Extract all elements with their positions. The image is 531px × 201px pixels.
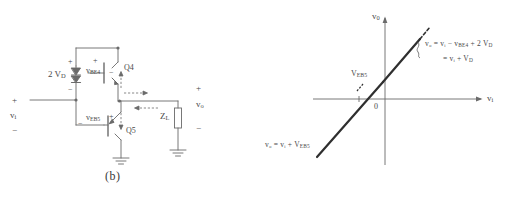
figure-container: + − vi 2 VD + − + vBE4 − vEB5 + − Q4 Q5 … xyxy=(0,0,531,201)
graph-lower-equation: v₀ = vᵢ + VEB5 xyxy=(265,141,310,150)
circuit-wires xyxy=(30,48,186,164)
graph-y-axis-label: v0 xyxy=(372,12,380,22)
vbe4-label: vBE4 xyxy=(86,67,100,76)
veb5-plus-sign: + xyxy=(109,113,114,121)
output-voltage-label: vo xyxy=(196,100,204,110)
input-minus-sign: − xyxy=(12,126,17,135)
input-plus-sign: + xyxy=(12,96,17,105)
transistor-q4-label: Q4 xyxy=(124,64,134,72)
graph-x-axis-label: vi xyxy=(487,94,493,104)
figure-drawing xyxy=(0,0,531,201)
vbe4-plus-sign: + xyxy=(93,57,98,65)
graph-upper-equation-line1: v₀ = vᵢ − vBE4 + 2 VD xyxy=(425,40,493,49)
graph-offset-label: VEB5 xyxy=(351,70,367,79)
diode-voltage-label: 2 VD xyxy=(48,70,66,80)
graph-transfer-curve xyxy=(317,27,430,157)
input-voltage-label: vi xyxy=(10,111,16,121)
output-plus-sign: + xyxy=(196,84,201,93)
graph-upper-equation-line2: = vᵢ + VD xyxy=(443,55,473,64)
vbe4-minus-sign: − xyxy=(109,69,114,77)
current-arrows xyxy=(119,72,158,130)
transistor-q4 xyxy=(112,78,118,85)
graph-equation-leader xyxy=(417,42,420,58)
load-impedance-label: ZL xyxy=(160,112,169,122)
transistor-q5-label: Q5 xyxy=(126,127,136,135)
diode-minus-sign: − xyxy=(68,86,73,94)
veb5-minus-sign: − xyxy=(78,120,83,128)
load-resistor-zl xyxy=(175,108,182,128)
veb5-label: vEB5 xyxy=(86,114,100,123)
output-minus-sign: − xyxy=(196,124,201,133)
diode-plus-sign: + xyxy=(68,58,73,66)
graph-origin-label: 0 xyxy=(374,103,378,111)
figure-caption: (b) xyxy=(105,170,121,182)
